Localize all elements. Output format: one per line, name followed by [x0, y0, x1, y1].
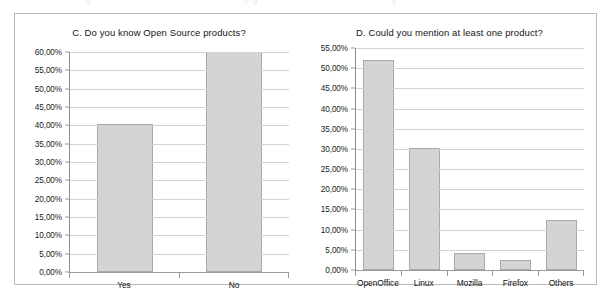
x-label-linux: Linux — [401, 278, 447, 288]
chart-c-title: C. Do you know Open Source products? — [21, 27, 297, 38]
chart-d-y-axis: 55,00%50,00%45,00%40,00%35,00%30,00%25,0… — [307, 48, 355, 270]
y-tick-label: 50,00% — [321, 64, 348, 73]
y-tick-label: 5,00% — [325, 245, 348, 254]
y-tick-label: 40,00% — [35, 121, 62, 130]
y-tick-label: 25,00% — [321, 165, 348, 174]
x-label-mozilla: Mozilla — [447, 278, 493, 288]
cropped-fragment: y — [392, 0, 397, 5]
gridline — [356, 88, 584, 89]
chart-d-panel: D. Could you mention at least one produc… — [307, 14, 592, 284]
gridline — [70, 144, 289, 145]
x-separator-end — [355, 270, 356, 276]
chart-c-panel: C. Do you know Open Source products? 60,… — [21, 14, 297, 284]
y-tick-label: 40,00% — [321, 104, 348, 113]
gridline — [356, 149, 584, 150]
gridline — [356, 129, 584, 130]
gridline — [70, 89, 289, 90]
gridline — [70, 107, 289, 108]
y-tick-label: 60,00% — [35, 48, 62, 57]
gridline — [356, 68, 584, 69]
chart-c-x-labels: YesNo — [69, 280, 289, 290]
chart-d-plot-area — [355, 48, 584, 270]
gridline — [70, 235, 289, 236]
y-tick-label: 45,00% — [321, 84, 348, 93]
y-tick-label: 45,00% — [35, 103, 62, 112]
cropped-fragment: g — [86, 0, 91, 5]
y-tick-label: 35,00% — [321, 124, 348, 133]
chart-d-title: D. Could you mention at least one produc… — [307, 27, 592, 38]
y-tick-label: 10,00% — [35, 231, 62, 240]
bar-slot — [402, 48, 448, 270]
gridline — [70, 180, 289, 181]
y-tick-label: 0,00% — [39, 268, 62, 277]
x-separator — [538, 270, 539, 276]
gridline — [70, 70, 289, 71]
bar-firefox[interactable] — [500, 260, 531, 270]
x-separator-end — [583, 270, 584, 276]
x-label-others: Others — [538, 278, 584, 288]
chart-c-x-separators — [69, 272, 289, 279]
gridline — [70, 199, 289, 200]
gridline — [356, 109, 584, 110]
y-tick-label: 50,00% — [35, 84, 62, 93]
gridline — [70, 217, 289, 218]
gridline — [356, 189, 584, 190]
chart-c-plot-area — [69, 52, 289, 272]
y-tick-label: 10,00% — [321, 225, 348, 234]
y-tick-label: 55,00% — [35, 66, 62, 75]
bar-slot — [447, 48, 493, 270]
x-separator-end — [69, 272, 70, 278]
x-separator — [492, 270, 493, 276]
y-tick-label: 20,00% — [321, 185, 348, 194]
gridline — [356, 250, 584, 251]
y-tick-label: 55,00% — [321, 44, 348, 53]
gridline — [70, 162, 289, 163]
chart-d-x-labels: OpenOfficeLinuxMozillaFirefoxOthers — [355, 278, 584, 288]
gridline — [70, 254, 289, 255]
x-separator — [401, 270, 402, 276]
chart-d-bars — [356, 48, 584, 270]
gridline — [356, 48, 584, 49]
figure-frame: C. Do you know Open Source products? 60,… — [14, 13, 597, 285]
y-tick-label: 0,00% — [325, 266, 348, 275]
y-tick-label: 25,00% — [35, 176, 62, 185]
x-separator-end — [288, 272, 289, 278]
chart-d-plot-wrap: 55,00%50,00%45,00%40,00%35,00%30,00%25,0… — [307, 48, 592, 270]
y-tick-label: 35,00% — [35, 139, 62, 148]
y-tick-label: 20,00% — [35, 194, 62, 203]
y-tick-label: 5,00% — [39, 249, 62, 258]
cropped-fragment: p g — [244, 0, 258, 5]
x-label-openoffice: OpenOffice — [355, 278, 401, 288]
y-tick-label: 30,00% — [35, 158, 62, 167]
gridline — [356, 230, 584, 231]
x-separator — [447, 270, 448, 276]
y-tick-label: 15,00% — [35, 213, 62, 222]
y-tick-label: 15,00% — [321, 205, 348, 214]
x-label-firefox: Firefox — [492, 278, 538, 288]
chart-d-x-separators — [355, 270, 584, 277]
bar-slot — [538, 48, 584, 270]
chart-c-plot-wrap: 60,00%55,00%50,00%45,00%40,00%35,00%30,0… — [21, 52, 297, 272]
gridline — [356, 209, 584, 210]
gridline — [356, 169, 584, 170]
x-separator — [179, 272, 180, 278]
bar-openoffice[interactable] — [363, 60, 394, 270]
gridline — [70, 52, 289, 53]
bar-slot — [493, 48, 539, 270]
chart-d-x-axis: OpenOfficeLinuxMozillaFirefoxOthers — [355, 270, 584, 288]
x-label-yes: Yes — [69, 280, 179, 290]
cropped-text-strip: g p g y — [0, 0, 611, 9]
bar-mozilla[interactable] — [454, 253, 485, 270]
gridline — [70, 125, 289, 126]
bar-others[interactable] — [546, 220, 577, 270]
y-tick-label: 30,00% — [321, 144, 348, 153]
chart-c-x-axis: YesNo — [69, 272, 289, 290]
x-label-no: No — [179, 280, 289, 290]
chart-c-y-axis: 60,00%55,00%50,00%45,00%40,00%35,00%30,0… — [21, 52, 69, 272]
bar-slot — [356, 48, 402, 270]
